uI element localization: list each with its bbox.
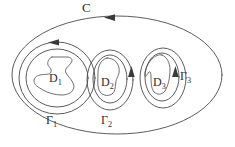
label-contour-gamma-1: Γ1	[46, 114, 57, 129]
diagram-canvas	[0, 0, 235, 147]
label-outer-contour-C: C	[82, 1, 91, 14]
label-domain-D2: D2	[101, 76, 114, 91]
label-contour-gamma-2: Γ2	[101, 114, 112, 129]
arrow-on-gamma-1-icon	[48, 39, 59, 45]
arrow-on-C-icon	[104, 14, 115, 21]
label-domain-D3: D3	[153, 76, 166, 91]
arrow-on-gamma-2-icon	[128, 66, 135, 77]
label-contour-gamma-3: Γ3	[180, 70, 191, 85]
label-domain-D1: D1	[49, 72, 62, 87]
contour-diagram: C D1 D2 D3 Γ1 Γ2 Γ3	[0, 0, 235, 147]
